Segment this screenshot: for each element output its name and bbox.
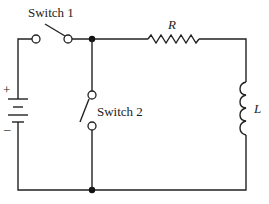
switch2-label: Switch 2 <box>97 104 143 119</box>
battery-minus-label: – <box>3 121 11 136</box>
battery-plus-label: + <box>3 82 10 97</box>
wire-top-right <box>199 39 246 82</box>
switch2-blade <box>80 99 89 122</box>
switch2-terminal-top <box>88 91 96 99</box>
switch1-label: Switch 1 <box>28 5 74 20</box>
inductor-L <box>240 82 246 135</box>
wire-right-bottom <box>18 126 246 190</box>
inductor-label: L <box>253 101 261 116</box>
circuit-diagram: + – Switch 1 Switch 2 R L <box>0 0 269 204</box>
wire-left-top <box>18 39 32 99</box>
switch1-terminal-left <box>32 35 40 43</box>
switch2-terminal-bottom <box>88 122 96 130</box>
resistor-R <box>148 35 199 43</box>
resistor-label: R <box>167 17 176 32</box>
switch1-blade <box>45 24 65 36</box>
switch1-terminal-right <box>64 35 72 43</box>
